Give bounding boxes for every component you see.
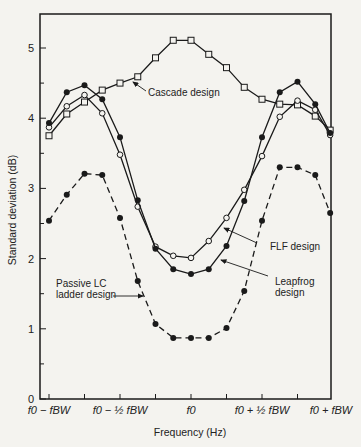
data-point (46, 120, 52, 126)
series-line (49, 167, 330, 338)
x-tick-label: f0 (186, 404, 196, 416)
plot-frame (40, 14, 331, 399)
data-point (99, 172, 105, 178)
data-point (117, 215, 123, 221)
data-point (259, 96, 265, 102)
data-point (99, 96, 105, 102)
data-point (295, 164, 301, 170)
data-point (153, 55, 159, 61)
data-point (153, 246, 159, 252)
y-tick-label: 4 (28, 112, 34, 124)
data-point (46, 133, 52, 139)
data-point (82, 82, 88, 88)
y-tick-label: 2 (28, 253, 34, 265)
data-point (224, 65, 230, 71)
data-point (117, 152, 123, 158)
series-line (49, 95, 330, 258)
data-point (295, 98, 301, 104)
data-point (117, 134, 123, 140)
data-point (82, 92, 88, 98)
x-tick-label: f0 + fBW (310, 404, 354, 416)
data-point (224, 215, 230, 221)
annotation-label: Passive LC (56, 278, 107, 289)
data-point (135, 74, 141, 80)
data-point (241, 198, 247, 204)
x-tick-label: f0 − ½ fBW (93, 404, 149, 416)
data-point (206, 266, 212, 272)
data-point (170, 266, 176, 272)
data-point (241, 288, 247, 294)
x-axis-ticks: f0 − fBWf0 − ½ fBWf0f0 + ½ fBWf0 + fBW (28, 394, 354, 416)
annotation-cascade: Cascade design (133, 82, 220, 98)
data-point (277, 164, 283, 170)
annotation-label: design (275, 287, 304, 298)
data-point (241, 84, 247, 90)
series-passive-lc-ladder-design (46, 164, 333, 341)
data-point (327, 130, 333, 136)
data-point (188, 271, 194, 277)
data-point (99, 110, 105, 116)
data-point (64, 103, 70, 109)
data-point (82, 171, 88, 177)
data-point (312, 101, 318, 107)
data-point (46, 218, 52, 224)
data-point (224, 243, 230, 249)
data-point (206, 51, 212, 57)
data-point (82, 99, 88, 105)
y-axis-title: Standard deviation (dB) (6, 155, 18, 265)
annotation-leapfrog: Leapfrogdesign (221, 260, 314, 298)
y-tick-label: 3 (28, 182, 34, 194)
data-point (277, 89, 283, 95)
data-point (259, 218, 265, 224)
data-point (206, 238, 212, 244)
std-deviation-chart: 012345 f0 − fBWf0 − ½ fBWf0f0 + ½ fBWf0 … (0, 0, 361, 447)
data-point (188, 335, 194, 341)
data-point (259, 134, 265, 140)
annotation-arrow (133, 82, 146, 91)
y-tick-label: 1 (28, 323, 34, 335)
data-point (188, 255, 194, 261)
y-axis-ticks: 012345 (28, 42, 46, 405)
data-point (312, 172, 318, 178)
data-point (153, 321, 159, 327)
data-point (277, 114, 283, 120)
data-point (188, 37, 194, 43)
data-point (259, 153, 265, 159)
annotation-label: ladder design (56, 289, 116, 300)
x-axis-title: Frequency (Hz) (154, 426, 226, 438)
annotation-passive: Passive LCladder design (56, 278, 143, 300)
data-point (170, 253, 176, 259)
data-point (327, 210, 333, 216)
data-point (99, 87, 105, 93)
data-point (170, 37, 176, 43)
data-point (206, 335, 212, 341)
data-point (170, 335, 176, 341)
data-point (64, 192, 70, 198)
y-tick-label: 5 (28, 42, 34, 54)
annotation-label: Cascade design (148, 87, 220, 98)
data-point (64, 89, 70, 95)
data-point (295, 79, 301, 85)
data-point (117, 80, 123, 86)
x-tick-label: f0 − fBW (28, 404, 72, 416)
annotation-label: Leapfrog (275, 276, 314, 287)
data-point (224, 325, 230, 331)
series-flf-design (46, 92, 333, 260)
x-tick-label: f0 + ½ fBW (235, 404, 291, 416)
annotation-label: FLF design (270, 241, 320, 252)
annotation-flf: FLF design (224, 228, 320, 252)
data-point (64, 111, 70, 117)
data-point (135, 278, 141, 284)
data-point (277, 101, 283, 107)
annotation-arrow (221, 260, 268, 276)
data-point (135, 197, 141, 203)
